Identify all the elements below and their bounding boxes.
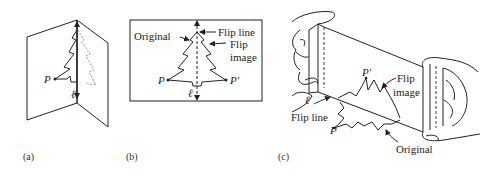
original-leader-b — [180, 37, 189, 40]
caption-a: (a) — [23, 151, 34, 163]
original-tree-a — [55, 30, 77, 82]
line-l-label-b: ℓ — [188, 87, 193, 99]
right-mirror-frame — [423, 64, 443, 132]
original-label-b: Original — [134, 30, 171, 42]
flip-image-tree-b — [197, 32, 226, 86]
card-left-face — [27, 20, 77, 120]
flip-line-label-c: Flip line — [291, 111, 328, 123]
flip-image-label-1-b: Flip — [230, 38, 248, 50]
point-p-label-c: P — [329, 124, 337, 136]
flip-image-label-1-c: Flip — [397, 72, 415, 84]
flip-image-label-2-b: image — [230, 51, 257, 63]
point-p-b — [167, 79, 170, 82]
mirror-top-edge — [324, 27, 423, 67]
caption-c: (c) — [278, 151, 289, 163]
original-tree-b — [168, 32, 197, 86]
line-l-leader-c — [314, 97, 330, 104]
point-p-prime-b — [225, 79, 228, 82]
panel-b: Original Flip line Flip image P P′ ℓ (b) — [126, 20, 262, 163]
line-l-label-c: ℓ — [305, 94, 310, 106]
point-p-label-b: P — [157, 74, 165, 86]
flip-image-label-2-c: image — [393, 86, 420, 98]
point-p-prime-label-c: P′ — [361, 66, 372, 78]
flip-line-label-b: Flip line — [218, 26, 255, 38]
reflection-figure: P ℓ (a) Original Flip line Flip image P … — [0, 0, 500, 176]
original-squiggle-c — [334, 102, 400, 130]
original-leader-c — [386, 130, 398, 142]
panel-a: P ℓ (a) — [23, 20, 108, 163]
caption-b: (b) — [126, 151, 138, 163]
point-p-a — [54, 78, 57, 81]
point-p-label-a: P — [43, 73, 51, 85]
line-l-label-a: ℓ — [71, 88, 76, 100]
flip-image-leader-b — [210, 43, 226, 44]
flip-image-tree-a — [78, 30, 96, 85]
panel-c: ℓ Flip line P P′ Flip image Original (c) — [278, 11, 480, 163]
point-p-prime-label-b: P′ — [229, 74, 240, 86]
original-label-c: Original — [396, 143, 433, 155]
flip-image-squiggle-c — [338, 78, 400, 118]
right-hand-drawing — [422, 57, 480, 140]
